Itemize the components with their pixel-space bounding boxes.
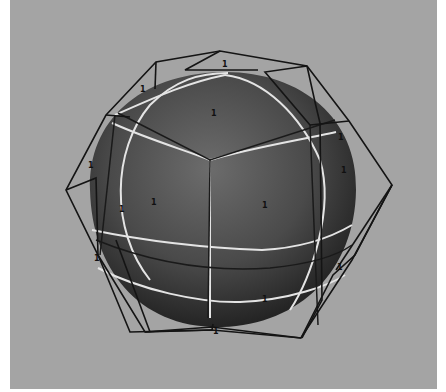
vertex-label: 1 (140, 85, 146, 94)
vertex-label: 1 (94, 254, 100, 263)
vertex-label: 1 (211, 109, 217, 118)
vertex-label: 1 (337, 263, 343, 272)
vertex-label: 1 (88, 161, 94, 170)
vertex-label: 1 (119, 205, 125, 214)
vertex-label: 1 (262, 295, 268, 304)
vertex-label: 1 (262, 201, 268, 210)
scene-canvas: 1 1 1 1 1 1 1 1 1 1 1 1 1 (10, 0, 437, 389)
vertex-label: 1 (222, 60, 228, 69)
vertex-label: 1 (213, 327, 219, 336)
vertex-label: 1 (341, 166, 347, 175)
3d-viewport[interactable]: 1 1 1 1 1 1 1 1 1 1 1 1 1 (10, 0, 437, 389)
vertex-label: 1 (338, 133, 344, 142)
vertex-label: 1 (151, 198, 157, 207)
